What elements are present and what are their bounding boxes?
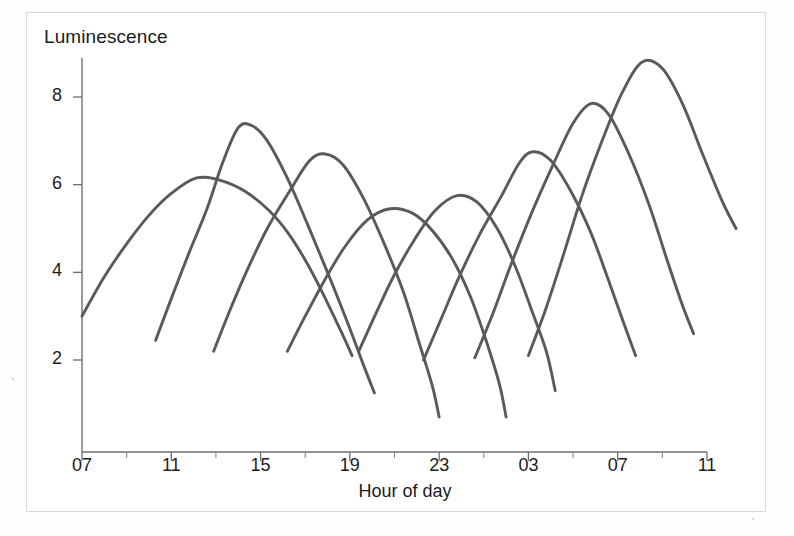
x-tick-label: 19 [330,455,370,476]
x-tick-label: 07 [598,455,638,476]
y-tick-label: 4 [36,260,62,281]
y-tick-label: 6 [36,173,62,194]
x-tick-label: 15 [241,455,281,476]
x-axis-label-wrap: Hour of day [0,481,794,502]
y-tick-label: 2 [36,348,62,369]
x-tick-label: 07 [62,455,102,476]
x-tick-label: 11 [151,455,191,476]
data-curves-group [82,60,736,417]
data-curve-cycle-4 [287,208,506,417]
data-curve-cycle-1 [82,177,352,355]
data-curve-cycle-6 [424,152,636,360]
x-tick-label: 11 [687,455,727,476]
figure-container: Luminescence 2468 0711151923030711 Hour … [0,0,794,536]
x-tick-label: 03 [508,455,548,476]
scan-speck [12,378,14,380]
x-tick-label: 23 [419,455,459,476]
x-axis-label: Hour of day [358,481,451,502]
scan-speck [752,518,754,520]
chart-plot-area [0,0,794,536]
data-curve-cycle-7 [475,103,694,358]
data-curve-cycle-8 [528,60,736,355]
y-tick-label: 8 [36,85,62,106]
